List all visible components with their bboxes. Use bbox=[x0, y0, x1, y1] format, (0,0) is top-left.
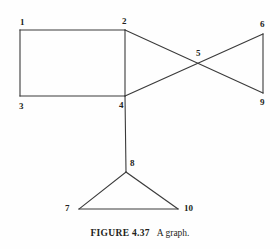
vertex-label-4: 4 bbox=[119, 100, 124, 110]
vertex-label-7: 7 bbox=[65, 203, 70, 213]
graph-edge-2-9 bbox=[125, 30, 263, 93]
graph-edge-4-8 bbox=[125, 96, 126, 172]
figure-title: A graph. bbox=[157, 228, 190, 238]
vertex-label-8: 8 bbox=[130, 158, 135, 168]
vertex-label-2: 2 bbox=[122, 16, 127, 26]
graph-edge-8-7 bbox=[79, 172, 126, 209]
graph-edges bbox=[20, 30, 263, 209]
vertex-label-6: 6 bbox=[260, 19, 265, 29]
vertex-label-3: 3 bbox=[19, 101, 24, 111]
graph-drawing bbox=[0, 0, 280, 249]
figure-caption: FIGURE 4.37A graph. bbox=[0, 228, 280, 238]
figure-container: 12345678910 FIGURE 4.37A graph. bbox=[0, 0, 280, 249]
vertex-label-5: 5 bbox=[196, 48, 201, 58]
vertex-label-9: 9 bbox=[260, 97, 265, 107]
vertex-label-1: 1 bbox=[20, 17, 25, 27]
graph-edge-4-6 bbox=[125, 34, 263, 96]
vertex-label-10: 10 bbox=[184, 203, 193, 213]
graph-edge-8-10 bbox=[126, 172, 178, 209]
figure-number: FIGURE 4.37 bbox=[91, 228, 150, 238]
